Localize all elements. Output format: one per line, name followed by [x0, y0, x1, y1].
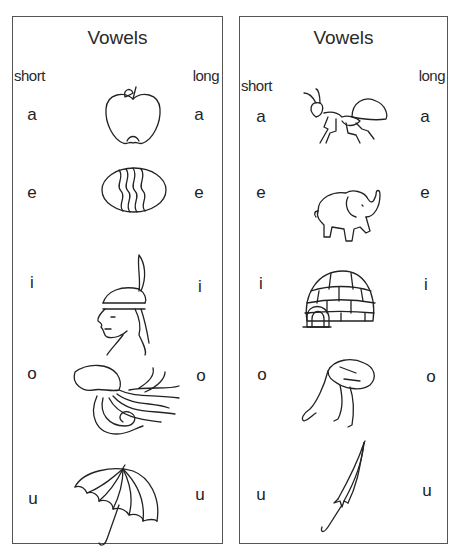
short-column-header: short [241, 77, 272, 94]
octopus-icon [69, 364, 181, 436]
worksheet-panel-left: Vowels short long a a e e i i [12, 16, 223, 544]
panel-title: Vowels [240, 27, 447, 49]
ostrich-icon [298, 357, 386, 429]
long-vowel-i: i [190, 277, 210, 297]
short-vowel-a: a [251, 107, 271, 127]
long-vowel-u: u [417, 481, 437, 501]
short-vowel-o: o [252, 365, 272, 385]
long-vowel-i: i [416, 275, 436, 295]
long-vowel-e: e [189, 183, 209, 203]
long-vowel-o: o [421, 367, 441, 387]
long-column-header: long [193, 67, 219, 84]
panel-title: Vowels [13, 27, 222, 49]
short-vowel-a: a [22, 105, 42, 125]
short-vowel-e: e [251, 183, 271, 203]
short-vowel-i: i [22, 273, 42, 293]
short-vowel-u: u [251, 485, 271, 505]
long-vowel-e: e [415, 183, 435, 203]
worksheet-panel-right: Vowels short long a a e e i i [239, 16, 448, 544]
short-vowel-o: o [22, 364, 42, 384]
short-vowel-u: u [23, 489, 43, 509]
indian-chief-icon [95, 251, 157, 355]
short-vowel-e: e [22, 183, 42, 203]
long-vowel-a: a [415, 107, 435, 127]
umbrella-open-icon [73, 467, 163, 547]
egg-icon [101, 167, 167, 213]
long-vowel-o: o [191, 366, 211, 386]
igloo-icon [301, 265, 379, 331]
long-column-header: long [419, 67, 445, 84]
ant-icon [302, 87, 390, 145]
apple-icon [103, 83, 163, 147]
elephant-icon [314, 187, 384, 243]
long-vowel-a: a [189, 105, 209, 125]
long-vowel-u: u [190, 485, 210, 505]
short-vowel-i: i [251, 274, 271, 294]
short-column-header: short [14, 67, 45, 84]
umbrella-closed-icon [318, 441, 368, 537]
